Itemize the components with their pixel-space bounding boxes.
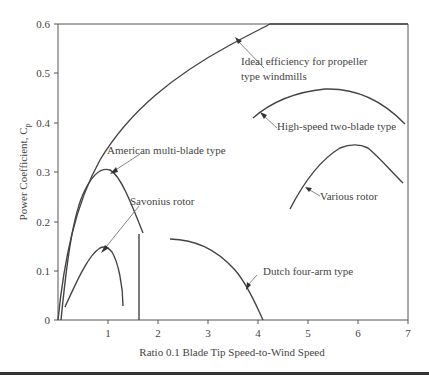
arrow-icon xyxy=(235,37,242,44)
x-tick-label: 1 xyxy=(105,327,111,339)
bottom-rule xyxy=(0,372,429,375)
axes xyxy=(58,24,408,320)
arrow-icon xyxy=(246,282,251,290)
curve-ideal-efficiency xyxy=(58,24,408,320)
annotation-dutch: Dutch four-arm type xyxy=(263,265,353,277)
y-tick-label: 0.2 xyxy=(36,216,50,228)
annotations: Ideal efficiency for propeller type wind… xyxy=(107,55,396,277)
y-tick-label: 0.5 xyxy=(36,67,50,79)
x-ticks: 1 2 3 4 5 6 7 xyxy=(105,320,411,339)
y-axis-label-group: Power Coefficient, Cp xyxy=(17,124,32,221)
annotation-high-speed: High-speed two-blade type xyxy=(277,120,396,132)
annotation-various-rotor: Various rotor xyxy=(320,190,378,202)
x-tick-label: 5 xyxy=(305,327,311,339)
annotation-savonius: Savonius rotor xyxy=(130,195,195,207)
y-tick-label: 0.6 xyxy=(36,18,50,30)
x-tick-label: 7 xyxy=(405,327,411,339)
x-tick-label: 6 xyxy=(355,327,361,339)
x-tick-label: 4 xyxy=(255,327,261,339)
svg-text:Power Coefficient, Cp: Power Coefficient, Cp xyxy=(17,124,32,221)
y-axis-label: Power Coefficient, C xyxy=(17,128,29,221)
curve-american-multi-blade xyxy=(61,169,143,320)
arrow-icon xyxy=(305,187,312,192)
y-tick-label: 0.3 xyxy=(36,166,50,178)
y-ticks: 0 0.1 0.2 0.3 0.4 0.5 0.6 xyxy=(36,18,58,326)
x-axis-label: Ratio 0.1 Blade Tip Speed-to-Wind Speed xyxy=(139,346,325,358)
annotation-american: American multi-blade type xyxy=(107,144,226,156)
x-tick-label: 2 xyxy=(155,327,161,339)
annotation-ideal-line2: type windmills xyxy=(241,70,307,82)
y-axis-label-subscript: p xyxy=(23,124,32,128)
y-tick-label: 0.1 xyxy=(36,265,50,277)
power-coefficient-chart: 0 0.1 0.2 0.3 0.4 0.5 0.6 1 2 3 4 5 6 7 … xyxy=(0,0,429,378)
curves xyxy=(58,24,408,320)
x-tick-label: 3 xyxy=(205,327,211,339)
y-tick-label: 0.4 xyxy=(36,117,50,129)
annotation-ideal-line1: Ideal efficiency for propeller xyxy=(241,55,368,67)
curve-dutch-four-arm xyxy=(170,239,263,320)
curve-savonius-rotor xyxy=(65,247,123,307)
curve-high-speed-two-blade xyxy=(253,89,405,124)
y-tick-label: 0 xyxy=(45,314,51,326)
